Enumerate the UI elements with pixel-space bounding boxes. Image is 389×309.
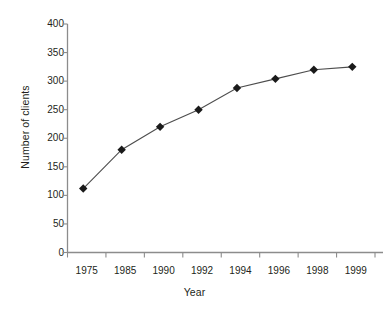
axis-lines [68, 24, 384, 253]
x-tick-label: 1975 [67, 266, 107, 276]
plot-area [0, 0, 389, 309]
x-axis-title-text: Year [184, 286, 206, 298]
x-axis-tick-marks [68, 253, 376, 258]
x-tick-label: 1999 [336, 266, 376, 276]
x-tick-label: 1998 [297, 266, 337, 276]
x-tick-label: 1994 [220, 266, 260, 276]
x-axis-title: Year [0, 286, 389, 298]
line-chart: Number of clients 0501001502002503003504… [0, 0, 389, 309]
data-point-marker [348, 63, 356, 71]
data-markers [79, 63, 356, 193]
data-line [83, 67, 352, 189]
y-axis-tick-marks [63, 24, 68, 253]
data-point-marker [194, 105, 202, 113]
data-point-marker [271, 75, 279, 83]
x-tick-label: 1996 [259, 266, 299, 276]
data-point-marker [233, 84, 241, 92]
data-point-marker [156, 123, 164, 131]
x-tick-label: 1990 [144, 266, 184, 276]
x-tick-label: 1992 [182, 266, 222, 276]
x-tick-label: 1985 [105, 266, 145, 276]
data-point-marker [310, 66, 318, 74]
